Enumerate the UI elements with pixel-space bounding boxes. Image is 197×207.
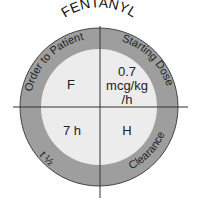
quadrant-clearance-value: H	[112, 124, 142, 138]
quadrant-order-to-patient-value: F	[56, 78, 86, 92]
dose-amount: 0.7	[102, 65, 152, 79]
quadrant-starting-dose-value: 0.7 mcg/kg /h	[102, 65, 152, 107]
drug-wheel-diagram: FENTANYL Order to Patient Starting Dose …	[0, 0, 197, 207]
drug-title: FENTANYL	[58, 0, 140, 20]
dose-rate-unit: /h	[102, 93, 152, 107]
quadrant-half-life-value: 7 h	[52, 124, 92, 138]
dose-unit: mcg/kg	[102, 79, 152, 93]
